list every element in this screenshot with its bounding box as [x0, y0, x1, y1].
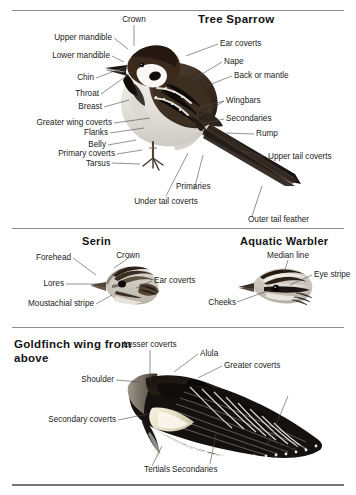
label-primary-coverts: Primary coverts: [58, 150, 115, 158]
label-lores: Lores: [44, 280, 64, 288]
label-under-tail-coverts: Under tail coverts: [134, 198, 198, 206]
label-upper-tail-coverts: Upper tail coverts: [268, 153, 332, 161]
label-lower-mandible: Lower mandible: [52, 52, 110, 60]
rule-top: [12, 10, 344, 11]
label-nape: Nape: [224, 58, 244, 66]
label-cheeks: Cheeks: [208, 299, 236, 307]
label-tarsus: Tarsus: [86, 160, 110, 168]
label-flanks: Flanks: [84, 129, 108, 137]
label-greater-coverts: Greater coverts: [224, 362, 280, 370]
label-eye-stripe: Eye stripe: [314, 271, 350, 279]
label-tertials: Tertials: [144, 466, 170, 474]
label-alula: Alula: [200, 350, 218, 358]
label-belly: Belly: [88, 141, 106, 149]
label-rump: Rump: [256, 130, 278, 138]
aquatic-warbler-head-illustration: [238, 260, 320, 310]
label-moustachial-stripe: Moustachial stripe: [28, 300, 94, 308]
label-ear-coverts-sparrow: Ear coverts: [220, 40, 261, 48]
goldfinch-wing-illustration: [110, 362, 340, 480]
label-crown-serin: Crown: [116, 252, 140, 260]
label-shoulder: Shoulder: [81, 376, 114, 384]
bird-topography-plate: Tree Sparrow: [0, 0, 356, 495]
label-median-line: Median line: [267, 252, 309, 260]
label-secondary-coverts: Secondary coverts: [48, 416, 116, 424]
tree-sparrow-illustration: [95, 24, 310, 204]
label-upper-mandible: Upper mandible: [54, 34, 112, 42]
label-breast: Breast: [78, 103, 102, 111]
section-title-aquatic-warbler: Aquatic Warbler: [240, 235, 328, 247]
label-outer-tail-feather: Outer tail feather: [248, 216, 309, 224]
label-crown: Crown: [122, 16, 146, 24]
label-primaries-sparrow: Primaries: [176, 183, 211, 191]
label-chin: Chin: [77, 74, 94, 82]
label-forehead: Forehead: [36, 254, 71, 262]
rule-heads-bottom: [12, 327, 344, 328]
label-secondaries-wing: Secondaries: [172, 466, 218, 474]
label-primaries-wing: Primaries: [270, 444, 305, 452]
label-secondaries-sparrow: Secondaries: [226, 115, 272, 123]
label-ear-coverts-serin: Ear coverts: [154, 277, 195, 285]
rule-sparrow-bottom: [12, 228, 344, 229]
label-wingbars: Wingbars: [226, 97, 261, 105]
label-lesser-coverts: Lesser coverts: [123, 341, 176, 349]
label-greater-wing-coverts: Greater wing coverts: [36, 119, 112, 127]
label-back-or-mantle: Back or mantle: [234, 72, 289, 80]
label-throat: Throat: [75, 90, 99, 98]
rule-bottom: [12, 484, 344, 486]
section-title-serin: Serin: [82, 235, 111, 247]
